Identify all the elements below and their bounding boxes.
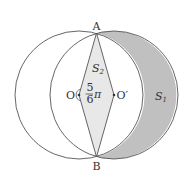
label-o-prime: O′ [117, 89, 129, 102]
two-circles-diagram: A B O O′ S2 S1 5 6 π [0, 0, 190, 181]
point-o-dot [78, 94, 81, 97]
angle-denominator: 6 [87, 93, 94, 106]
point-o-prime-dot [113, 94, 116, 97]
label-o: O [66, 89, 75, 102]
label-b: B [93, 160, 101, 173]
label-a: A [92, 20, 102, 33]
angle-pi: π [93, 88, 102, 101]
